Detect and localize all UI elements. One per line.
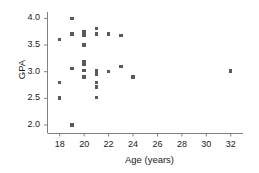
data-point [95,81,98,84]
y-tick-label: 3.5 [8,39,40,49]
data-point [70,67,73,70]
data-point [82,63,85,66]
y-tick-label: 2.5 [8,92,40,102]
data-point [70,17,73,20]
data-point [82,34,85,37]
data-point [107,70,110,73]
y-axis-label: GPA [16,55,27,85]
plot-area: 2.02.53.03.54.0 1820222426283032 GPA Age… [0,0,259,173]
data-point [58,38,61,41]
data-point [95,27,98,30]
data-point [131,75,134,78]
y-tick-label: 2.0 [8,119,40,129]
data-point [70,123,73,126]
data-point [95,72,98,75]
data-point [82,75,85,78]
y-tick-label: 4.0 [8,12,40,22]
data-point [82,69,85,72]
data-point [95,32,98,35]
scatter-plot-figure: 2.02.53.03.54.0 1820222426283032 GPA Age… [0,0,259,173]
data-point [58,81,61,84]
data-point [95,85,98,88]
data-point [119,34,122,37]
data-point [107,32,110,35]
data-point [95,96,98,99]
data-point [119,65,122,68]
data-point [70,32,73,35]
y-tick-marks [44,18,48,125]
x-tick-label: 32 [217,139,245,149]
data-point [229,69,232,72]
data-point [58,96,61,99]
x-axis-label: Age (years) [0,154,259,165]
data-point [82,43,85,46]
